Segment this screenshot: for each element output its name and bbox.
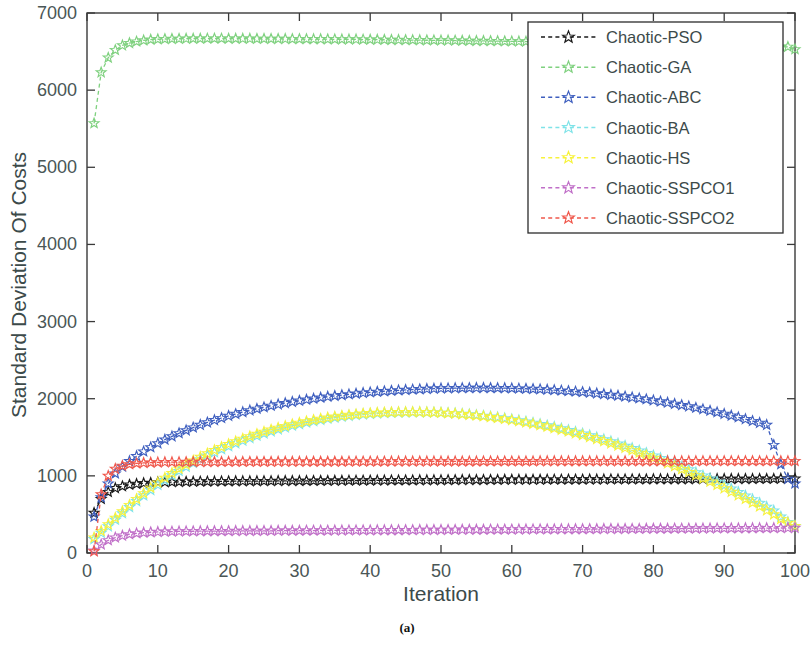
x-tick-label: 20 bbox=[219, 561, 239, 581]
legend-item-label: Chaotic-HS bbox=[606, 149, 690, 167]
legend-item-label: Chaotic-BA bbox=[606, 119, 689, 137]
legend-item-label: Chaotic-PSO bbox=[606, 28, 702, 46]
y-axis-title: Standard Deviation Of Costs bbox=[7, 152, 30, 418]
x-axis-title: Iteration bbox=[403, 582, 479, 605]
chart-canvas: 01000200030004000500060007000 0102030405… bbox=[0, 0, 811, 645]
legend-item-label: Chaotic-SSPCO2 bbox=[606, 209, 734, 227]
series-chaotic-sspco1 bbox=[89, 523, 800, 555]
figure-container: 01000200030004000500060007000 0102030405… bbox=[0, 0, 811, 645]
y-tick-label: 3000 bbox=[37, 312, 77, 332]
series-marker bbox=[280, 398, 290, 407]
series-marker bbox=[287, 397, 297, 406]
series-chaotic-pso bbox=[89, 474, 800, 518]
series-marker bbox=[302, 394, 312, 403]
x-tick-label: 0 bbox=[82, 561, 92, 581]
y-tick-label: 1000 bbox=[37, 466, 77, 486]
x-tick-label: 50 bbox=[431, 561, 451, 581]
x-tick-label: 100 bbox=[780, 561, 810, 581]
legend-item-label: Chaotic-ABC bbox=[606, 88, 701, 106]
x-tick-label: 40 bbox=[360, 561, 380, 581]
series-marker bbox=[132, 479, 142, 488]
series-marker bbox=[309, 393, 319, 402]
x-tick-label: 10 bbox=[148, 561, 168, 581]
x-tick-label: 60 bbox=[502, 561, 522, 581]
series-marker bbox=[316, 392, 326, 401]
x-tick-label: 70 bbox=[573, 561, 593, 581]
series-marker bbox=[294, 396, 304, 405]
series-chaotic-hs bbox=[89, 407, 800, 542]
chart-legend: Chaotic-PSOChaotic-GAChaotic-ABCChaotic-… bbox=[528, 22, 783, 233]
legend-item-label: Chaotic-GA bbox=[606, 58, 691, 76]
y-tick-label: 4000 bbox=[37, 234, 77, 254]
series-chaotic-abc bbox=[89, 383, 800, 521]
series-marker bbox=[330, 391, 340, 400]
x-tick-label: 90 bbox=[714, 561, 734, 581]
series-line bbox=[94, 388, 795, 517]
figure-caption: (a) bbox=[399, 620, 414, 635]
series-marker bbox=[769, 440, 779, 449]
y-tick-label: 5000 bbox=[37, 157, 77, 177]
series-marker bbox=[337, 390, 347, 399]
series-marker bbox=[344, 389, 354, 398]
y-tick-label: 2000 bbox=[37, 389, 77, 409]
y-tick-label: 7000 bbox=[37, 3, 77, 23]
series-marker bbox=[125, 480, 135, 489]
y-tick-label: 6000 bbox=[37, 80, 77, 100]
x-tick-label: 30 bbox=[289, 561, 309, 581]
x-tick-label: 80 bbox=[643, 561, 663, 581]
y-tick-label: 0 bbox=[67, 543, 77, 563]
legend-item-label: Chaotic-SSPCO1 bbox=[606, 179, 734, 197]
series-marker bbox=[783, 42, 793, 51]
series-marker bbox=[323, 392, 333, 401]
